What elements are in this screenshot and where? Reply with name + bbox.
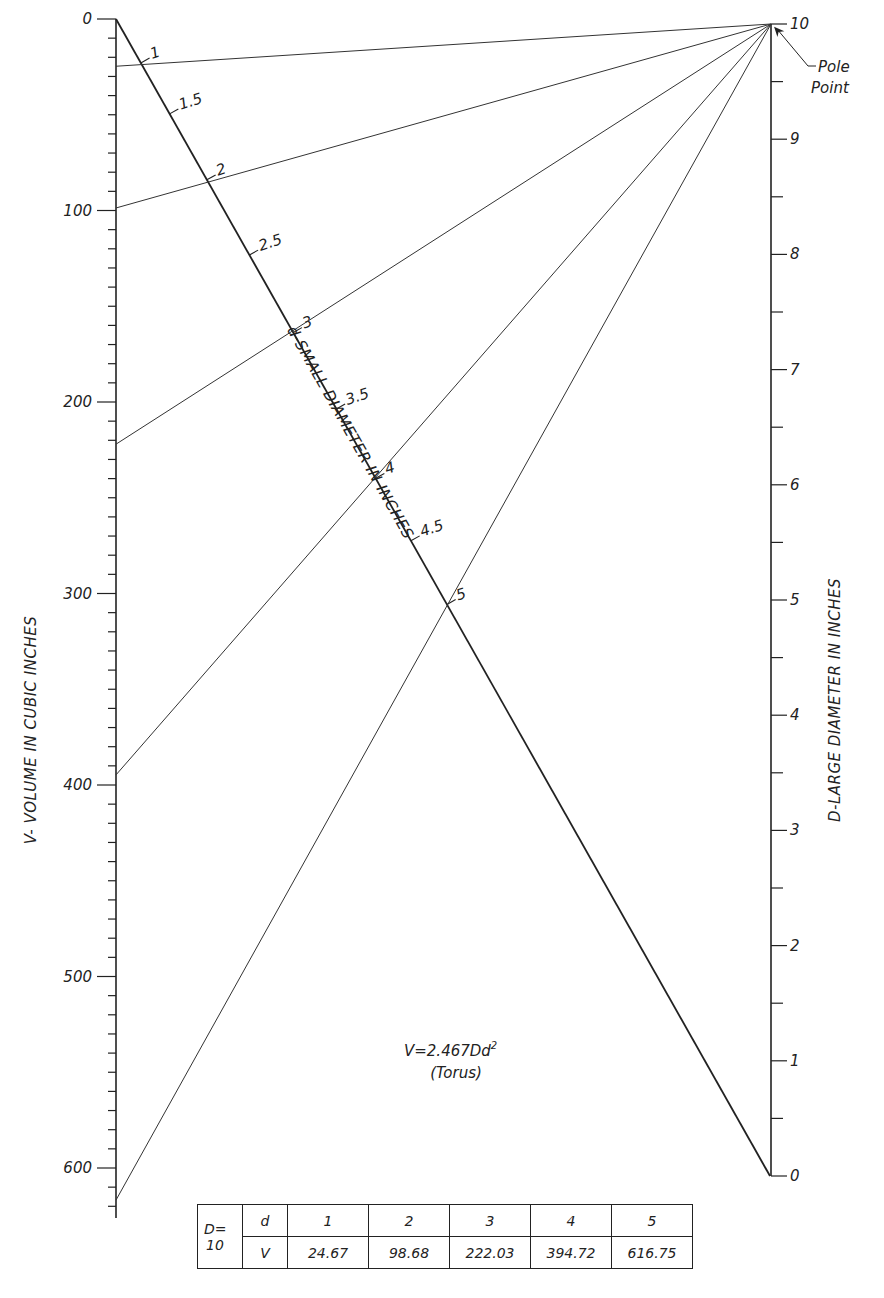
volume-tick-label: 200 — [63, 393, 92, 411]
volume-tick-label: 0 — [82, 10, 92, 28]
small-diameter-tick-label: 1 — [148, 43, 163, 63]
volume-tick-label: 500 — [63, 968, 92, 986]
diameter-tick-label: 6 — [790, 476, 800, 494]
v-cell: 98.68 — [369, 1237, 450, 1269]
small-diameter-tick-label: 2.5 — [256, 230, 284, 254]
isopleth-line — [116, 24, 771, 1200]
pole-point-annotation: Pole Point — [771, 23, 850, 97]
diameter-tick-label: 0 — [790, 1167, 800, 1185]
diameter-tick-label: 2 — [790, 937, 800, 955]
v-cell: 616.75 — [612, 1237, 693, 1269]
diameter-tick-label: 1 — [790, 1052, 800, 1070]
small-diameter-tick-label: 1.5 — [176, 89, 204, 113]
nomogram-chart: 0100200300400500600 012345678910 11.522.… — [0, 0, 884, 1298]
volume-axis-title: V- VOLUME IN CUBIC INCHES — [22, 616, 40, 844]
formula-subtitle: (Torus) — [430, 1064, 482, 1082]
diameter-tick-label: 8 — [790, 245, 800, 263]
volume-tick-label: 100 — [63, 202, 92, 220]
small-diameter-axis-title: d-SMALL DIAMETER IN INCHES — [283, 323, 417, 542]
d-cell: 3 — [450, 1205, 531, 1237]
isopleth-line — [116, 24, 771, 66]
large-diameter-axis: 012345678910 — [771, 15, 809, 1185]
table-row-d: D= 10 d 1 2 3 4 5 — [198, 1205, 693, 1237]
pole-label-line2: Point — [811, 79, 850, 97]
v-header-cell: V — [243, 1237, 288, 1269]
pole-label-line1: Pole — [818, 58, 850, 76]
large-diameter-axis-title: D-LARGE DIAMETER IN INCHES — [826, 578, 844, 822]
d-cell: 4 — [531, 1205, 612, 1237]
isopleth-line — [116, 24, 771, 444]
diameter-tick-label: 9 — [790, 130, 800, 148]
isopleth-line — [116, 24, 771, 208]
D-label: D= — [198, 1221, 242, 1237]
small-diameter-tick-label: 5 — [454, 584, 469, 604]
volume-axis: 0100200300400500600 — [63, 10, 116, 1218]
diameter-tick-label: 7 — [790, 361, 800, 379]
D-value-cell: D= 10 — [198, 1205, 243, 1269]
volume-tick-label: 600 — [63, 1159, 92, 1177]
values-table: D= 10 d 1 2 3 4 5 V 24.67 98.68 222.03 3… — [197, 1204, 693, 1269]
diameter-tick-label: 10 — [790, 15, 809, 33]
diameter-tick-label: 3 — [790, 821, 800, 839]
v-cell: 394.72 — [531, 1237, 612, 1269]
d-cell: 1 — [288, 1205, 369, 1237]
v-cell: 222.03 — [450, 1237, 531, 1269]
small-diameter-tick-label: 3.5 — [343, 384, 371, 408]
table-row-v: V 24.67 98.68 222.03 394.72 616.75 — [198, 1237, 693, 1269]
small-diameter-tick-label: 4.5 — [418, 516, 446, 540]
formula-block: V=2.467Dd2 (Torus) — [404, 1040, 497, 1082]
d-cell: 2 — [369, 1205, 450, 1237]
d-header-cell: d — [243, 1205, 288, 1237]
diameter-tick-label: 4 — [790, 706, 800, 724]
volume-tick-label: 400 — [63, 776, 92, 794]
d-cell: 5 — [612, 1205, 693, 1237]
volume-tick-label: 300 — [63, 585, 92, 603]
small-diameter-axis: 11.522.533.544.55 — [116, 19, 770, 1176]
isopleth-lines — [116, 24, 771, 1200]
v-cell: 24.67 — [288, 1237, 369, 1269]
formula-text: V=2.467Dd2 — [404, 1040, 497, 1060]
D-value: 10 — [198, 1237, 242, 1253]
diameter-tick-label: 5 — [790, 591, 800, 609]
isopleth-line — [116, 24, 771, 775]
